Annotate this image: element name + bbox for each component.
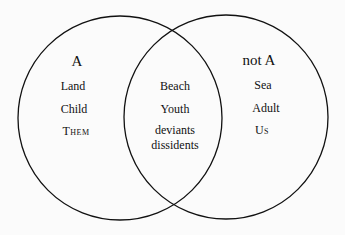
intersection-item: Beach (160, 80, 190, 92)
intersection-item: deviants (155, 124, 195, 136)
right-item: Us (255, 124, 269, 136)
right-circle-not-a (124, 15, 328, 219)
right-set-title: not A (243, 53, 276, 68)
left-circle-a (18, 16, 222, 220)
venn-circles (0, 0, 345, 235)
right-item: Sea (254, 79, 271, 91)
intersection-item: Youth (161, 103, 190, 115)
left-item: Land (61, 80, 86, 92)
left-item: Child (61, 103, 88, 115)
left-item: Them (62, 125, 89, 137)
intersection-item: dissidents (151, 139, 198, 151)
venn-diagram: A Land Child Them Beach Youth deviants d… (0, 0, 345, 235)
left-set-title: A (72, 54, 83, 69)
right-item: Adult (252, 102, 279, 114)
